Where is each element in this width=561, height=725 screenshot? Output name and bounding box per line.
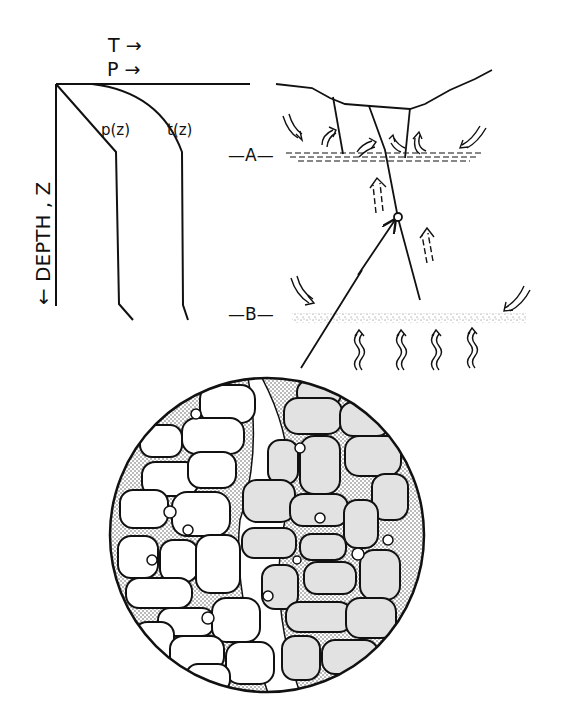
fault-2 [405,108,410,158]
heat-arrows [355,328,478,370]
depth-profile-plot: T → P → p(z) t(z) ← DEPTH , Z [31,34,250,320]
upflow-arrows [322,127,426,157]
p-curve-label: p(z) [101,121,130,139]
heat-source-layer-b [292,313,526,323]
t-curve-label: t(z) [167,121,192,139]
level-a-label: —A— [228,145,274,165]
fluid-rise-arrows [370,178,434,263]
axis-t-label: T → [107,34,142,56]
main-fault [369,106,420,300]
pore-space-micrograph [110,378,430,695]
depth-axis-label: ← DEPTH , Z [31,182,55,305]
junction-point [394,213,402,221]
pressure-curve [56,84,133,320]
level-b-label: —B— [228,304,274,324]
cross-section: —A— —B— [228,70,530,370]
fault-1 [333,97,343,154]
temperature-curve [92,84,188,320]
ground-surface [276,70,492,109]
magma-conduit [301,220,395,368]
axis-p-label: P → [107,58,140,80]
figure: T → P → p(z) t(z) ← DEPTH , Z —A— —B— [0,0,561,725]
